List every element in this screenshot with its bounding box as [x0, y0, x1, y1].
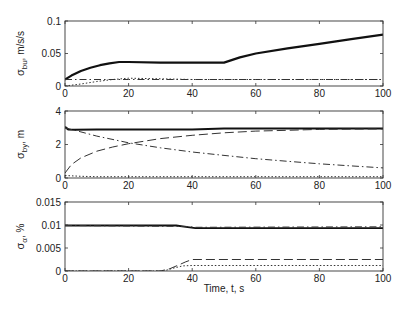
x-tick-label: 100: [375, 273, 392, 284]
line-solid: [65, 35, 383, 80]
y-tick-label: 0.1: [47, 16, 61, 27]
x-tick-label: 0: [62, 180, 68, 191]
x-tick-label: 80: [314, 180, 326, 191]
x-tick-label: 40: [187, 273, 199, 284]
x-tick-label: 20: [123, 273, 135, 284]
x-tick-label: 0: [62, 273, 68, 284]
series-group: [65, 127, 383, 177]
x-tick-label: 40: [187, 88, 199, 99]
y-axis-label: σα, %: [14, 223, 29, 249]
x-tick-label: 40: [187, 180, 199, 191]
line-dashed: [65, 129, 383, 173]
axes-frame: [65, 111, 383, 178]
figure-canvas: 02040608010000.050.1σbu, m/s/s 020406080…: [0, 0, 407, 310]
y-axis-label: σby, m: [14, 130, 29, 159]
x-tick-label: 60: [250, 88, 262, 99]
line-dash-dot: [65, 128, 383, 168]
y-tick-label: 0.015: [36, 197, 61, 208]
series-group: [65, 226, 383, 272]
x-tick-label: 60: [250, 180, 262, 191]
x-tick-label: 80: [314, 273, 326, 284]
y-tick-label: 0: [55, 81, 61, 92]
subplot-sigma-by: 020406080100024σby, m: [14, 106, 392, 192]
y-tick-label: 2: [55, 139, 61, 150]
x-tick-label: 100: [375, 88, 392, 99]
x-tick-label: 80: [314, 88, 326, 99]
x-tick-label: 20: [123, 180, 135, 191]
y-tick-label: 0.05: [42, 48, 62, 59]
axes-frame: [65, 202, 383, 271]
y-tick-label: 4: [55, 106, 61, 117]
series-group: [65, 35, 383, 86]
line-dotted: [65, 266, 383, 272]
subplot-sigma-alpha: 02040608010000.0050.010.015σα, %: [14, 197, 392, 285]
x-tick-label: 60: [250, 273, 262, 284]
y-tick-label: 0.01: [42, 220, 62, 231]
y-tick-label: 0: [55, 266, 61, 277]
x-tick-label: 0: [62, 88, 68, 99]
y-tick-label: 0.005: [36, 243, 61, 254]
x-axis-label: Time, t, s: [204, 283, 245, 294]
subplot-sigma-bu: 02040608010000.050.1σbu, m/s/s: [14, 16, 392, 100]
line-dotted: [65, 176, 383, 177]
x-tick-label: 20: [123, 88, 135, 99]
x-tick-label: 100: [375, 180, 392, 191]
y-tick-label: 0: [55, 173, 61, 184]
axes-frame: [65, 21, 383, 86]
y-axis-label: σbu, m/s/s: [14, 31, 29, 76]
